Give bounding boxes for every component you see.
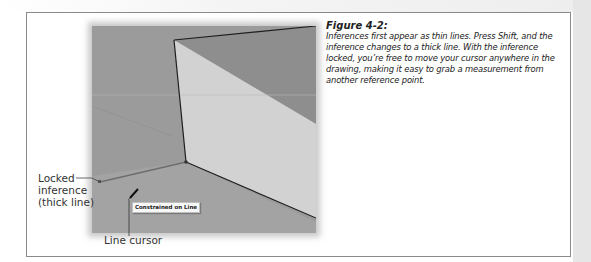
line-cursor-label: Line cursor <box>104 234 162 246</box>
figure-caption: Figure 4-2: Inferences first appear as t… <box>326 20 566 86</box>
figure-number: Figure 4-2: <box>326 20 566 31</box>
figure-caption-text: Inferences first appear as thin lines. P… <box>326 31 566 86</box>
page-right-band <box>573 0 591 262</box>
label-line-1: Locked <box>38 172 94 184</box>
constrained-tooltip: Constrained on Line <box>132 202 200 213</box>
label-line-3: (thick line) <box>38 196 94 208</box>
corner-point <box>184 160 188 164</box>
locked-inference-label: Locked inference (thick line) <box>38 172 94 208</box>
scene-drawing <box>92 26 316 233</box>
label-line-2: inference <box>38 184 94 196</box>
inference-endpoint <box>98 180 101 183</box>
page-top-band <box>0 0 591 12</box>
sketchup-scene-screenshot <box>92 26 316 233</box>
